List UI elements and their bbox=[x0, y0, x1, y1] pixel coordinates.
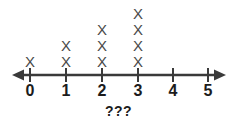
data-marker-1-2: X bbox=[61, 37, 71, 54]
data-marker-3-1: X bbox=[133, 53, 143, 70]
axis-arrow-right-icon bbox=[214, 70, 226, 81]
chart-caption: ??? bbox=[0, 103, 237, 119]
axis-label-group: 012345 bbox=[26, 82, 213, 99]
data-marker-1-1: X bbox=[61, 53, 71, 70]
axis-tick-label-1: 1 bbox=[62, 82, 71, 99]
axis-tick-label-3: 3 bbox=[134, 82, 143, 99]
data-marker-2-2: X bbox=[97, 37, 107, 54]
axis-tick-label-4: 4 bbox=[169, 82, 178, 99]
axis-arrow-left-icon bbox=[12, 70, 24, 81]
data-marker-3-2: X bbox=[133, 37, 143, 54]
data-marker-3-3: X bbox=[133, 21, 143, 38]
number-line-axis bbox=[12, 70, 226, 81]
dot-plot-figure: 012345 XXXXXXXXXX ??? bbox=[0, 0, 237, 127]
axis-tick-label-0: 0 bbox=[26, 82, 35, 99]
data-marker-3-4: X bbox=[133, 5, 143, 22]
data-marker-group: XXXXXXXXXX bbox=[25, 5, 143, 70]
axis-tick-label-2: 2 bbox=[98, 82, 107, 99]
data-marker-2-1: X bbox=[97, 53, 107, 70]
data-marker-2-3: X bbox=[97, 21, 107, 38]
axis-tick-label-5: 5 bbox=[204, 82, 213, 99]
data-marker-0-1: X bbox=[25, 53, 35, 70]
